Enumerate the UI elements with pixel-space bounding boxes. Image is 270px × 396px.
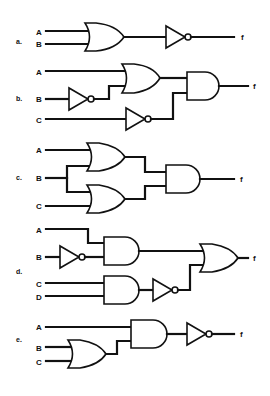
input-label-d: D xyxy=(36,293,42,302)
input-label-c: C xyxy=(36,116,42,125)
and-gate xyxy=(187,72,219,100)
and-gate xyxy=(131,320,167,348)
input-label-b: B xyxy=(36,253,42,262)
or-gate xyxy=(68,340,106,368)
input-label-b: B xyxy=(36,174,42,183)
not-gate xyxy=(187,323,206,345)
circuit-label: b. xyxy=(16,95,22,102)
not-gate-b xyxy=(60,246,79,268)
output-label-f: f xyxy=(253,254,256,263)
circuit-label: e. xyxy=(16,336,22,343)
input-label-c: C xyxy=(36,358,42,367)
input-label-a: A xyxy=(36,68,42,77)
input-label-a: A xyxy=(36,323,42,332)
circuit-label: d. xyxy=(16,268,22,275)
not-gate xyxy=(153,279,172,301)
or-gate xyxy=(85,23,124,51)
circuit-c: c. A B C f xyxy=(16,143,243,213)
input-label-c: C xyxy=(36,280,42,289)
not-gate-b xyxy=(69,88,88,110)
circuit-d: d. A B C D f xyxy=(16,226,256,304)
not-gate xyxy=(166,26,185,48)
output-label-f: f xyxy=(253,82,256,91)
circuit-a: a. A B f xyxy=(16,23,244,51)
input-label-a: A xyxy=(36,226,42,235)
circuit-label: c. xyxy=(16,174,22,181)
input-label-c: C xyxy=(36,202,42,211)
circuit-label: a. xyxy=(16,38,22,45)
and-gate-top xyxy=(104,237,139,265)
and-gate-bottom xyxy=(104,276,139,304)
logic-circuits-figure: a. A B f b. A B C f xyxy=(0,0,270,396)
and-gate xyxy=(166,165,200,193)
circuit-b: b. A B C f xyxy=(16,64,256,130)
or-gate xyxy=(200,244,238,272)
input-label-a: A xyxy=(36,28,42,37)
output-label-f: f xyxy=(240,175,243,184)
input-label-b: B xyxy=(36,95,42,104)
output-label-f: f xyxy=(241,33,244,42)
or-gate-top xyxy=(87,143,125,171)
output-label-f: f xyxy=(240,330,243,339)
or-gate xyxy=(122,64,160,93)
input-label-b: B xyxy=(36,40,42,49)
not-gate-c xyxy=(126,108,145,130)
input-label-a: A xyxy=(36,146,42,155)
or-gate-bottom xyxy=(87,185,125,213)
circuit-e: e. A B C f xyxy=(16,320,243,368)
input-label-b: B xyxy=(36,344,42,353)
